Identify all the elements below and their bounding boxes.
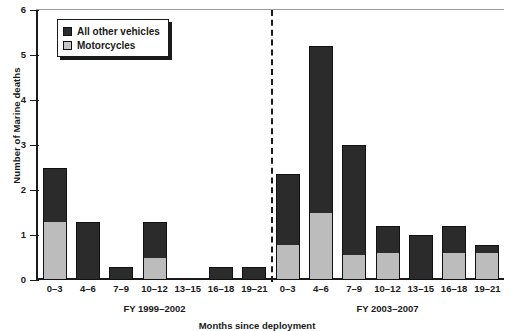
y-axis-tick — [30, 280, 39, 282]
bar-segment-motorcycles — [143, 258, 167, 281]
x-axis-tick-label: 7–9 — [338, 283, 371, 294]
bar-segment-all-other-vehicles — [276, 174, 300, 245]
bar — [209, 267, 233, 281]
bar-segment-motorcycles — [475, 253, 499, 280]
bar — [409, 235, 433, 280]
bar-segment-all-other-vehicles — [209, 267, 233, 281]
panel-group-label: FY 2003–2007 — [271, 303, 504, 314]
x-axis-tick-label: 4–6 — [304, 283, 337, 294]
x-axis-tick-label: 16–18 — [204, 283, 237, 294]
bar-segment-all-other-vehicles — [309, 46, 333, 213]
y-axis-tick — [30, 100, 39, 102]
x-axis-tick-label: 7–9 — [105, 283, 138, 294]
bar-segment-all-other-vehicles — [409, 235, 433, 280]
y-axis-tick-label: 0 — [0, 274, 26, 285]
y-axis-tick — [30, 10, 39, 12]
y-axis-tick-label: 5 — [0, 49, 26, 60]
x-axis-tick-label: 19–21 — [238, 283, 271, 294]
bar-segment-all-other-vehicles — [475, 245, 499, 253]
bar-segment-motorcycles — [276, 245, 300, 280]
bar — [376, 226, 400, 280]
bar — [475, 245, 499, 280]
y-axis-tick — [30, 55, 39, 57]
panel-divider — [271, 10, 273, 282]
bar — [76, 222, 100, 281]
x-axis-title: Months since deployment — [0, 320, 514, 331]
bar-segment-all-other-vehicles — [342, 145, 366, 255]
bar-segment-motorcycles — [309, 213, 333, 281]
bar-segment-motorcycles — [342, 255, 366, 280]
bar-segment-all-other-vehicles — [109, 267, 133, 281]
panel-group-label: FY 1999–2002 — [38, 303, 271, 314]
bar — [442, 226, 466, 280]
x-axis-tick-label: 13–15 — [404, 283, 437, 294]
bar-segment-motorcycles — [442, 253, 466, 280]
bar-segment-all-other-vehicles — [43, 168, 67, 222]
y-axis-tick-label: 3 — [0, 139, 26, 150]
legend-swatch-icon-all-other-vehicles — [63, 27, 72, 36]
legend-label: Motorcycles — [77, 40, 135, 51]
y-axis-tick — [30, 190, 39, 192]
y-axis-tick — [30, 235, 39, 237]
bar-segment-all-other-vehicles — [143, 222, 167, 258]
x-axis-tick-label: 0–3 — [38, 283, 71, 294]
x-axis-tick-label: 16–18 — [437, 283, 470, 294]
x-axis-tick-label: 19–21 — [471, 283, 504, 294]
bar — [242, 267, 266, 281]
y-axis-tick-label: 1 — [0, 229, 26, 240]
chart-legend: All other vehicles Motorcycles — [57, 19, 169, 57]
y-axis-tick-label: 2 — [0, 184, 26, 195]
bar-segment-all-other-vehicles — [76, 222, 100, 281]
bar — [109, 267, 133, 281]
legend-item-all-other-vehicles: All other vehicles — [63, 24, 160, 38]
legend-swatch-icon-motorcycles — [63, 41, 72, 50]
x-axis-tick-label: 0–3 — [271, 283, 304, 294]
bar-segment-motorcycles — [376, 253, 400, 280]
bar — [342, 145, 366, 280]
bar — [276, 174, 300, 280]
bar — [43, 168, 67, 281]
legend-label: All other vehicles — [77, 26, 160, 37]
bar-segment-motorcycles — [43, 222, 67, 281]
x-axis-tick-label: 10–12 — [371, 283, 404, 294]
bar-segment-all-other-vehicles — [376, 226, 400, 253]
x-axis-tick-label: 13–15 — [171, 283, 204, 294]
x-axis-tick-label: 4–6 — [71, 283, 104, 294]
y-axis-tick — [30, 145, 39, 147]
bar-segment-all-other-vehicles — [442, 226, 466, 253]
bar — [143, 222, 167, 281]
legend-item-motorcycles: Motorcycles — [63, 38, 160, 52]
x-axis-tick-label: 10–12 — [138, 283, 171, 294]
bar-segment-all-other-vehicles — [242, 267, 266, 281]
y-axis-tick-label: 6 — [0, 4, 26, 15]
y-axis-tick-label: 4 — [0, 94, 26, 105]
bar — [309, 46, 333, 280]
